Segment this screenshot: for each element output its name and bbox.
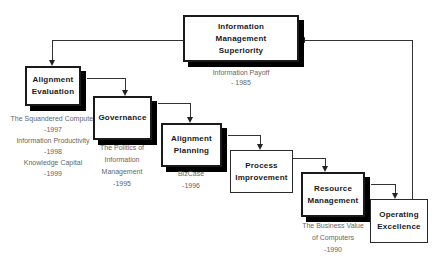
connector-ims-to-alignment-evaluation-vline — [52, 40, 53, 61]
node-title-resource-management: Resource Management — [308, 183, 359, 207]
connector-operating-excellence-to-ims-hline — [305, 40, 413, 41]
connector-governance-to-alignment-planning-vline — [190, 103, 191, 118]
connector-alignment-evaluation-to-governance-hline — [87, 78, 125, 79]
connector-governance-to-alignment-planning-hline — [158, 103, 191, 104]
node-title-information-management-superiority: Information Management Superiority — [216, 21, 267, 57]
node-information-management-superiority: Information Management Superiority — [183, 15, 299, 62]
node-title-alignment-evaluation: Alignment Evaluation — [32, 74, 74, 98]
node-title-alignment-planning: Alignment Planning — [171, 133, 212, 157]
node-subtitle-information-management-superiority: Information Payoff - 1985 — [181, 68, 301, 88]
connector-ims-to-alignment-evaluation-hline — [52, 40, 183, 41]
node-operating-excellence: Operating Excellence — [370, 199, 428, 243]
node-alignment-planning: Alignment Planning — [161, 123, 222, 167]
arrowhead-left-into-ims-icon — [299, 37, 305, 43]
node-process-improvement: Process Improvement — [230, 150, 293, 193]
node-title-operating-excellence: Operating Excellence — [377, 209, 420, 233]
connector-operating-excellence-to-ims-vline — [412, 40, 413, 200]
node-alignment-evaluation: Alignment Evaluation — [25, 66, 81, 106]
connector-process-improvement-to-resource-management-hline — [293, 158, 326, 159]
node-title-governance: Governance — [98, 112, 146, 124]
node-title-process-improvement: Process Improvement — [235, 160, 287, 184]
diagram-canvas: Information Management Superiority Infor… — [0, 0, 443, 263]
connector-resource-management-to-operating-excellence-hline — [371, 184, 396, 185]
node-resource-management: Resource Management — [301, 172, 365, 217]
connector-alignment-planning-to-process-improvement-hline — [228, 135, 261, 136]
node-governance: Governance — [93, 96, 152, 140]
